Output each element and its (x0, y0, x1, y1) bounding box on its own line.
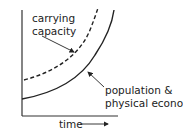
carrying-capacity-label-line1: carrying (32, 12, 75, 24)
carrying-capacity-label-line2: capacity (32, 25, 76, 37)
population-label-line1: population & (105, 84, 172, 96)
carrying-capacity-arrow (42, 36, 74, 52)
population-label-line2: physical economy (105, 97, 183, 109)
x-axis-label-time: time (59, 118, 83, 130)
population-arrow (88, 72, 104, 87)
diagram-canvas (0, 0, 183, 132)
